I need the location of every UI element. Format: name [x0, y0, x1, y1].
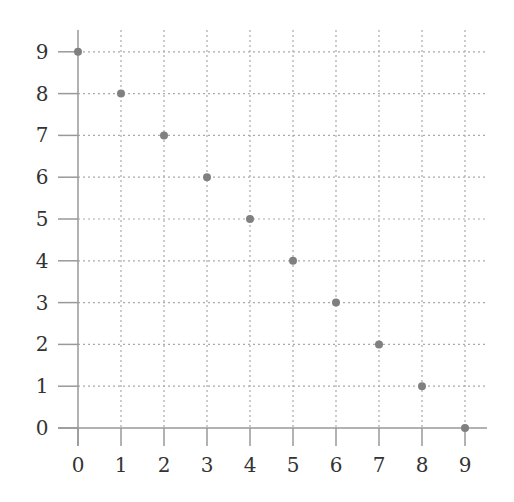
x-tick-label: 9	[459, 453, 472, 477]
data-point	[461, 424, 469, 432]
x-tick-label: 2	[158, 453, 171, 477]
data-point	[375, 340, 383, 348]
y-tick-label: 9	[36, 40, 49, 64]
x-tick-label: 0	[72, 453, 85, 477]
y-tick-labels: 0123456789	[36, 40, 49, 440]
y-tick-label: 4	[36, 249, 49, 273]
x-tick-label: 4	[244, 453, 257, 477]
y-tick-label: 5	[36, 207, 49, 231]
y-tick-label: 3	[36, 291, 49, 315]
grid-lines	[78, 30, 487, 428]
data-point	[332, 299, 340, 307]
data-point	[203, 173, 211, 181]
x-tick-label: 6	[330, 453, 343, 477]
data-point	[117, 90, 125, 98]
x-tick-label: 1	[115, 453, 128, 477]
y-tick-label: 1	[36, 374, 49, 398]
tick-marks	[58, 52, 465, 446]
x-tick-label: 8	[416, 453, 429, 477]
x-tick-label: 3	[201, 453, 214, 477]
data-point	[418, 382, 426, 390]
x-tick-label: 5	[287, 453, 300, 477]
data-point	[289, 257, 297, 265]
data-point	[160, 131, 168, 139]
x-tick-label: 7	[373, 453, 386, 477]
x-tick-labels: 0123456789	[72, 453, 472, 477]
data-point	[246, 215, 254, 223]
data-points	[74, 48, 469, 432]
y-tick-label: 8	[36, 82, 49, 106]
data-point	[74, 48, 82, 56]
y-tick-label: 7	[36, 123, 49, 147]
y-tick-label: 6	[36, 165, 49, 189]
y-tick-label: 0	[36, 416, 49, 440]
scatter-chart: 0123456789 0123456789	[0, 0, 514, 502]
y-tick-label: 2	[36, 332, 49, 356]
